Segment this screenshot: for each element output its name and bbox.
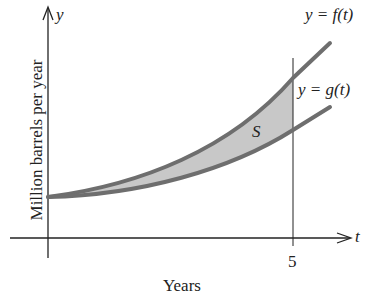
f-curve-label: y = f(t) bbox=[305, 5, 353, 25]
g-curve-label: y = g(t) bbox=[298, 80, 350, 100]
x-axis-title: Years bbox=[163, 276, 201, 296]
tick-label-5: 5 bbox=[288, 252, 297, 272]
y-axis-title: Million barrels per year bbox=[27, 45, 47, 235]
region-s-label: S bbox=[252, 122, 261, 142]
t-axis-symbol: t bbox=[355, 227, 360, 247]
chart-canvas bbox=[0, 0, 371, 300]
y-axis-symbol: y bbox=[56, 5, 64, 25]
